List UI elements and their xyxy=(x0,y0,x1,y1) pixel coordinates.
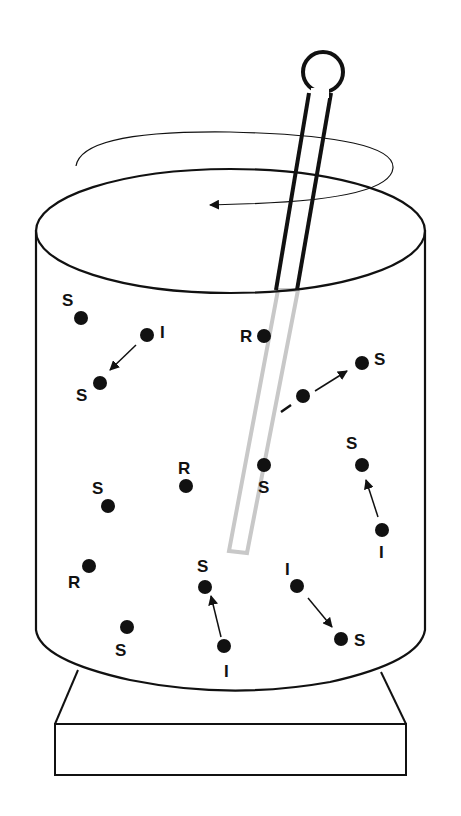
stand-left-leg xyxy=(55,670,78,724)
stirring-rod-knob xyxy=(303,52,343,92)
particle-dot xyxy=(140,328,154,342)
particle-dot xyxy=(290,579,304,593)
particle-label: S xyxy=(92,479,103,498)
particle-dot xyxy=(296,389,310,403)
particle-label: R xyxy=(178,459,190,478)
particle-dot xyxy=(355,458,369,472)
particle-dot xyxy=(101,499,115,513)
particle-label: S xyxy=(374,350,385,369)
particle-label: I xyxy=(224,662,229,681)
particle-dot xyxy=(257,458,271,472)
particle-label: S xyxy=(346,434,357,453)
particle-label: R xyxy=(68,573,80,592)
particle-dot xyxy=(375,523,389,537)
particle-label: S xyxy=(354,631,365,650)
particle-dot xyxy=(179,479,193,493)
particle-dot xyxy=(82,559,96,573)
particle-label: S xyxy=(258,478,269,497)
particle-dot xyxy=(334,632,348,646)
stand-block xyxy=(55,724,406,775)
particle-dot xyxy=(198,580,212,594)
particle-label: S xyxy=(115,641,126,660)
particle-label: I xyxy=(160,323,165,342)
particle-dot xyxy=(355,356,369,370)
stand-right-leg xyxy=(381,672,406,724)
particle-dot xyxy=(217,639,231,653)
stir-motion-arrow-back xyxy=(76,132,393,168)
particle-dot xyxy=(74,311,88,325)
stirring-rod-neck xyxy=(311,88,329,98)
particle-label: S xyxy=(76,386,87,405)
particle-label: S xyxy=(197,557,208,576)
particle-dot xyxy=(120,620,134,634)
particle-label: R xyxy=(240,327,252,346)
stirred-beaker-diagram: S I S R S R S S S I R S I I S S xyxy=(0,0,461,816)
particle-dot xyxy=(257,329,271,343)
particle-label: I xyxy=(379,543,384,562)
particle-dot xyxy=(93,376,107,390)
particle-label: I xyxy=(285,560,290,579)
particle-label: S xyxy=(62,291,73,310)
